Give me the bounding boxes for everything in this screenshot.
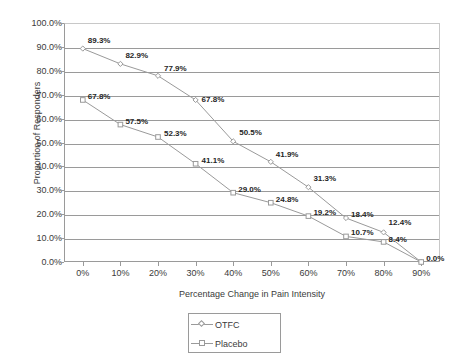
- y-tick-mark: [60, 262, 64, 263]
- legend-key-marker: [198, 320, 205, 327]
- x-tick-mark: [233, 262, 234, 266]
- data-label: 89.3%: [88, 36, 111, 45]
- legend-marker-icon: [189, 315, 215, 335]
- data-label: 18.4%: [351, 210, 374, 219]
- x-tick-mark: [158, 262, 159, 266]
- chart-legend: OTFCPlacebo: [188, 313, 281, 353]
- legend-item-placebo[interactable]: Placebo: [189, 334, 280, 354]
- data-label: 52.3%: [164, 129, 187, 138]
- data-label: 29.0%: [238, 185, 261, 194]
- plot-area: [64, 23, 440, 262]
- chart-container: Proportion of Responders 0.0%10.0%20.0%3…: [0, 0, 456, 360]
- legend-marker-icon: [189, 334, 215, 354]
- data-label: 67.8%: [88, 92, 111, 101]
- y-tick-label: 100.0%: [0, 18, 62, 28]
- data-label: 50.5%: [239, 128, 262, 137]
- legend-label: Placebo: [215, 339, 248, 349]
- legend-item-otfc[interactable]: OTFC: [189, 315, 280, 335]
- legend-key-marker: [199, 340, 205, 346]
- gridline: [65, 239, 439, 240]
- x-tick-label: 30%: [176, 268, 216, 278]
- data-label: 24.8%: [276, 195, 299, 204]
- data-label: 12.4%: [389, 218, 412, 227]
- y-tick-label: 40.0%: [0, 161, 62, 171]
- x-tick-mark: [421, 262, 422, 266]
- data-label: 41.9%: [276, 150, 299, 159]
- x-tick-label: 40%: [213, 268, 253, 278]
- y-tick-label: 60.0%: [0, 114, 62, 124]
- data-label: 82.9%: [125, 51, 148, 60]
- gridline: [65, 215, 439, 216]
- x-tick-label: 80%: [364, 268, 404, 278]
- data-label: 31.3%: [313, 174, 336, 183]
- x-tick-mark: [308, 262, 309, 266]
- y-tick-label: 10.0%: [0, 233, 62, 243]
- gridline: [65, 72, 439, 73]
- x-tick-label: 60%: [288, 268, 328, 278]
- y-tick-label: 0.0%: [0, 257, 62, 267]
- x-tick-label: 90%: [401, 268, 441, 278]
- gridline: [65, 96, 439, 97]
- legend-label: OTFC: [215, 320, 240, 330]
- data-label: 8.4%: [389, 235, 407, 244]
- data-label: 57.5%: [125, 117, 148, 126]
- x-tick-mark: [346, 262, 347, 266]
- x-tick-mark: [196, 262, 197, 266]
- gridline: [65, 48, 439, 49]
- x-tick-label: 10%: [100, 268, 140, 278]
- x-tick-mark: [83, 262, 84, 266]
- gridline: [65, 167, 439, 168]
- x-tick-label: 50%: [251, 268, 291, 278]
- x-tick-label: 0%: [63, 268, 103, 278]
- data-label: 0.0%: [426, 254, 444, 263]
- y-tick-label: 80.0%: [0, 66, 62, 76]
- x-tick-mark: [271, 262, 272, 266]
- y-tick-label: 30.0%: [0, 185, 62, 195]
- data-label: 67.8%: [202, 95, 225, 104]
- x-tick-label: 70%: [326, 268, 366, 278]
- y-tick-label: 70.0%: [0, 90, 62, 100]
- y-tick-label: 50.0%: [0, 138, 62, 148]
- data-label: 10.7%: [351, 228, 374, 237]
- x-tick-label: 20%: [138, 268, 178, 278]
- y-tick-label: 20.0%: [0, 209, 62, 219]
- data-label: 77.9%: [164, 64, 187, 73]
- gridline: [65, 120, 439, 121]
- x-tick-mark: [384, 262, 385, 266]
- data-label: 19.2%: [313, 208, 336, 217]
- gridline: [65, 144, 439, 145]
- x-tick-mark: [120, 262, 121, 266]
- data-label: 41.1%: [202, 156, 225, 165]
- x-axis-title: Percentage Change in Pain Intensity: [64, 289, 440, 299]
- y-tick-label: 90.0%: [0, 42, 62, 52]
